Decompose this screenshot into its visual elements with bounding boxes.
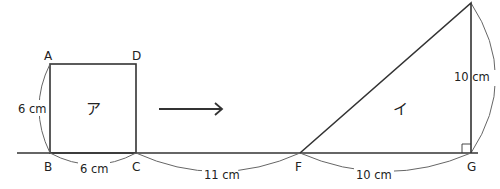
label-gap-11cm: 11 cm: [204, 168, 240, 182]
label-b: B: [44, 160, 52, 174]
label-bottom-6cm: 6 cm: [80, 162, 109, 176]
triangle-i: [300, 3, 471, 153]
label-base-10cm: 10 cm: [356, 168, 392, 182]
geometry-diagram: A D B C F G 6 cm 6 cm 11 cm 10 cm 10 cm …: [0, 0, 500, 189]
label-shape-a: ア: [86, 100, 101, 118]
label-height-10cm: 10 cm: [454, 70, 490, 84]
label-a: A: [44, 49, 53, 63]
label-shape-i: イ: [393, 100, 408, 118]
label-side-6cm: 6 cm: [18, 102, 47, 116]
label-d: D: [132, 49, 141, 63]
label-c: C: [132, 160, 140, 174]
label-f: F: [295, 160, 302, 174]
right-angle-mark: [462, 144, 471, 153]
label-g: G: [467, 160, 476, 174]
